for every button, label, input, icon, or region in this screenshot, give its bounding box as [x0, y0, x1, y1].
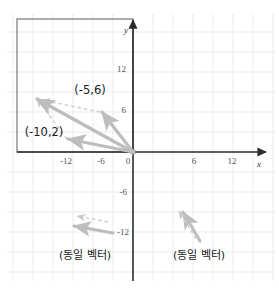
origin-label: 0: [126, 156, 131, 166]
x-tick-label-6: 6: [192, 156, 197, 166]
vector-group-bottom-right: [179, 211, 200, 241]
annotation-equal-vectors-right: (동일 벡터): [173, 248, 225, 262]
figure-canvas: -12 -6 6 12 12 6 -6 -12 0 x y (-5,6) (-1…: [0, 0, 279, 288]
vector-equal-right-dashed: [179, 211, 196, 239]
vector-group-bottom-left: [74, 216, 113, 233]
y-tick-label-neg6: -6: [120, 187, 128, 197]
x-tick-label-neg12: -12: [60, 156, 72, 166]
vector-equal-right-solid: [183, 212, 200, 241]
x-tick-label-neg6: -6: [97, 156, 105, 166]
y-tick-label-neg12: -12: [117, 227, 129, 237]
vector-equal-left-dashed: [77, 216, 108, 222]
y-axis-label: y: [123, 25, 128, 35]
x-tick-label-12: 12: [228, 156, 237, 166]
grid-lines: [7, 14, 275, 281]
y-tick-label-6: 6: [122, 105, 127, 115]
y-tick-label-12: 12: [117, 64, 126, 74]
annotation-equal-vectors-left: (동일 벡터): [59, 248, 111, 262]
vector-diagram: -12 -6 6 12 12 6 -6 -12 0 x y (-5,6) (-1…: [0, 0, 279, 288]
annotation-vector-b: (-10,2): [25, 125, 64, 139]
x-axis-label: x: [256, 159, 261, 169]
annotation-vector-a: (-5,6): [74, 83, 105, 97]
